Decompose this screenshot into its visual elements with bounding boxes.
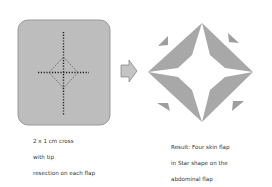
resected-tip-top-right <box>228 33 239 43</box>
resected-tip-top-left <box>158 36 168 46</box>
right-caption-line: Result: Four skin flap <box>171 143 271 151</box>
right-caption: Result: Four skin flap in Star shape on … <box>171 135 271 187</box>
resected-tip-bottom-left <box>157 103 170 111</box>
flap-bottom-right <box>202 72 253 122</box>
skin-panel <box>18 20 110 125</box>
flap-top-left <box>148 23 202 72</box>
flap-top-right <box>202 23 253 72</box>
left-caption-line: with tip <box>33 153 123 161</box>
flap-bottom-left <box>148 72 202 122</box>
resected-tip-bottom-right <box>232 101 244 111</box>
left-caption: 2 x 1 cm cross with tip resection on eac… <box>33 129 123 185</box>
left-caption-line: 2 x 1 cm cross <box>33 137 123 145</box>
star-flap-result <box>148 23 253 122</box>
right-caption-line: abdominal flap <box>171 175 271 183</box>
right-caption-line: in Star shape on the <box>171 159 271 167</box>
right-arrow-icon <box>121 60 137 82</box>
left-caption-line: resection on each flap <box>33 169 123 177</box>
